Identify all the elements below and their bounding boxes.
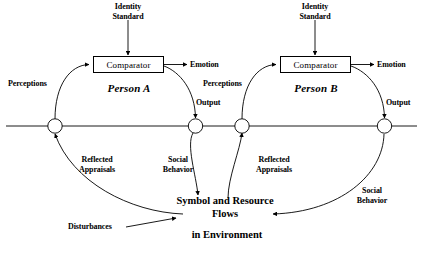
reflected-appraisals-label-b: Reflected Appraisals [243,155,305,174]
reflected-appraisals-label-a: Reflected Appraisals [66,155,128,174]
environment-flows-line1: Symbol and Resource [145,194,305,207]
reflected-appraisals-path-b [228,133,242,198]
social-behavior-label-a: Social Behavior [154,155,202,174]
comparator-label-b: Comparator [294,60,338,70]
output-path-a [164,66,196,118]
environment-flows-line3: in Environment [172,228,282,241]
identity-standard-label-b: Identity Standard [285,2,345,21]
disturbances-label: Disturbances [68,222,128,232]
person-b-label: Person B [280,84,352,94]
node-circle-output-b [377,119,391,133]
output-path-b [351,66,385,118]
node-circle-perceptions-b [235,119,249,133]
disturbances-arrow [126,218,176,227]
emotion-label-b: Emotion [377,60,419,70]
comparator-box-person-a: Comparator [93,56,164,73]
perceptions-path-b [242,65,276,120]
identity-standard-label-a: Identity Standard [98,2,158,21]
comparator-label-a: Comparator [107,60,151,70]
perceptions-path-a [55,65,89,120]
comparator-box-person-b: Comparator [280,56,351,73]
identity-control-theory-diagram: Comparator Comparator Identity Standard … [0,0,423,253]
person-a-label: Person A [93,84,165,94]
perceptions-label-b: Perceptions [203,79,259,89]
perceptions-label-a: Perceptions [8,79,64,89]
node-circle-perceptions-a [48,119,62,133]
output-label-b: Output [386,98,420,108]
output-label-a: Output [196,98,230,108]
social-behavior-label-b: Social Behavior [347,186,397,205]
emotion-label-a: Emotion [190,60,230,70]
environment-flows-line2: Flows [175,207,275,220]
node-circle-output-a [188,119,202,133]
